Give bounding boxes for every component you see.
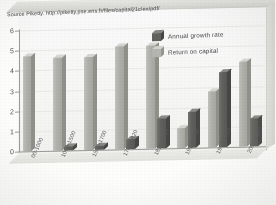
legend-label-return-on-capital: Return on capital: [168, 46, 218, 55]
legend-item-return-on-capital[interactable]: Return on capital: [152, 41, 224, 60]
x-axis-label: 1950-2012: [215, 127, 232, 155]
x-axis-label: 1500-1700: [91, 129, 108, 157]
x-axis-label: 1913-1950: [184, 127, 201, 155]
x-axis-labels: 00-10001000-15001500-17001700-18201820-1…: [0, 0, 276, 205]
x-axis-label: 1820-1913: [153, 128, 170, 156]
x-axis-label: 1700-1820: [122, 129, 139, 157]
chart-3d-stage: Source Piketty. http://piketty.pse.ens.f…: [0, 0, 276, 205]
chart-legend: Annual growth rate Return on capital: [152, 25, 224, 60]
x-axis-label: 1000-1500: [60, 130, 77, 158]
x-axis-label: 00-1000: [30, 137, 44, 159]
legend-label-annual-growth-rate: Annual growth rate: [168, 30, 224, 39]
legend-swatch-annual-growth-rate: [152, 31, 163, 40]
x-axis-label: 2050-2100: [246, 126, 263, 154]
legend-swatch-return-on-capital: [152, 47, 163, 56]
